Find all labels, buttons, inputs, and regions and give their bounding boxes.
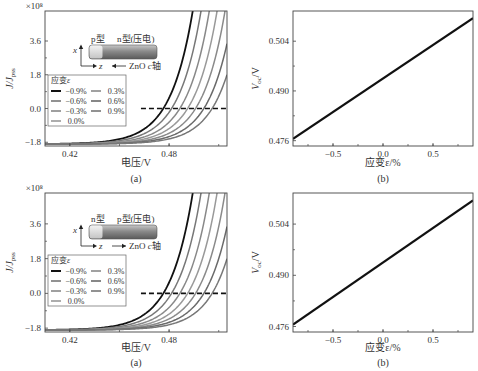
y-tick-label: 0.490 — [269, 86, 290, 96]
figure-canvas: −1.80.01.83.60.420.48电压/V(a)J/Jpss×10⁸应变… — [0, 0, 478, 371]
voc-line — [293, 200, 473, 324]
x-axis-label: 电压/V — [121, 156, 152, 168]
x-axis-label: 应变ε/% — [365, 156, 400, 168]
c-axis-label: ZnO c轴 — [129, 60, 161, 71]
legend-entry: −0.6% — [65, 277, 87, 286]
legend-entry: −0.3% — [65, 287, 87, 296]
chart-top-b: 0.4760.4900.504−0.50.00.5应变ε/%(b)Voc/V — [250, 11, 473, 185]
y-tick-label: 0.504 — [269, 219, 290, 229]
legend-title: 应变ε — [51, 75, 71, 85]
legend-entry: 0.3% — [108, 267, 125, 276]
legend-entry: 0.6% — [108, 277, 125, 286]
z-axis-symbol: z — [98, 241, 103, 251]
chart-top-a: −1.80.01.83.60.420.48电压/V(a)J/Jpss×10⁸应变… — [4, 0, 227, 185]
x-tick-label: 0.42 — [62, 335, 78, 345]
left-segment — [90, 46, 103, 59]
c-axis-label: ZnO c轴 — [129, 240, 161, 251]
y-tick-label: 3.6 — [30, 219, 42, 229]
legend: 应变ε−0.9%−0.6%−0.3%0.0%0.3%0.6%0.9% — [48, 75, 126, 126]
voc-line — [293, 18, 473, 139]
plot-area — [293, 18, 473, 139]
legend-entry: 0.6% — [108, 97, 125, 106]
x-axis-label: 应变ε/% — [365, 341, 400, 353]
legend-entry: 0.0% — [68, 117, 85, 126]
legend-entry: −0.9% — [65, 267, 87, 276]
legend-entry: −0.3% — [65, 107, 87, 116]
y-tick-label: 0.0 — [30, 104, 42, 114]
right-segment-label: n型(压电) — [117, 33, 155, 44]
legend-entry: 0.9% — [108, 107, 125, 116]
legend-entry: −0.9% — [65, 87, 87, 96]
y-tick-label: 1.8 — [30, 70, 42, 80]
y-axis-label: Voc/V — [250, 66, 263, 89]
x-tick-label: −0.5 — [325, 149, 342, 159]
x-tick-label: 0.5 — [427, 149, 439, 159]
x-axis-symbol: x — [72, 45, 77, 55]
y-axis-label: J/Jpss — [4, 252, 17, 273]
panel-caption: (b) — [377, 173, 389, 185]
chart-bottom-a: −1.80.01.83.60.420.48电压/V(a)J/Jpss×10⁸应变… — [4, 139, 227, 369]
x-axis-symbol: x — [72, 225, 77, 235]
right-segment-label: p型(压电) — [117, 213, 155, 224]
y-tick-label: 3.6 — [30, 36, 42, 46]
y-tick-label: 0.476 — [269, 136, 290, 146]
y-tick-label: 0.504 — [269, 36, 290, 46]
legend-entry: 0.0% — [68, 297, 85, 306]
chart-bottom-b: 0.4760.4900.504−0.50.00.5应变ε/%(b)Voc/V — [250, 193, 473, 369]
y-multiplier: ×10⁸ — [26, 1, 43, 11]
panel-caption: (a) — [130, 173, 141, 185]
legend-entry: 0.9% — [108, 287, 125, 296]
x-tick-label: 0.48 — [161, 149, 177, 159]
y-tick-label: −1.8 — [25, 137, 42, 147]
left-segment — [90, 226, 103, 239]
legend-title: 应变ε — [51, 255, 71, 265]
legend-entry: −0.6% — [65, 97, 87, 106]
y-tick-label: 0.490 — [269, 270, 290, 280]
y-tick-label: 0.476 — [269, 322, 290, 332]
y-axis-label: J/Jpss — [4, 68, 17, 89]
y-tick-label: 0.0 — [30, 288, 42, 298]
z-axis-symbol: z — [98, 61, 103, 71]
panel-caption: (a) — [130, 357, 141, 369]
x-tick-label: −0.5 — [325, 335, 342, 345]
x-tick-label: 0.42 — [62, 149, 78, 159]
panel-caption: (b) — [377, 357, 389, 369]
legend: 应变ε−0.9%−0.6%−0.3%0.0%0.3%0.6%0.9% — [48, 255, 126, 306]
x-tick-label: 0.5 — [427, 335, 439, 345]
legend-entry: 0.3% — [108, 87, 125, 96]
left-segment-label: n型 — [91, 214, 105, 224]
x-axis-label: 电压/V — [121, 341, 152, 353]
device-inset: n型p型(压电)xzZnO c轴 — [72, 213, 161, 251]
left-segment-label: p型 — [91, 34, 105, 44]
y-axis-label: Voc/V — [250, 250, 263, 273]
x-tick-label: 0.48 — [161, 335, 177, 345]
y-multiplier: ×10⁸ — [26, 183, 43, 193]
plot-area — [293, 200, 473, 324]
y-tick-label: 1.8 — [30, 254, 42, 264]
y-tick-label: −1.8 — [25, 323, 42, 333]
device-inset: p型n型(压电)xzZnO c轴 — [72, 33, 161, 71]
